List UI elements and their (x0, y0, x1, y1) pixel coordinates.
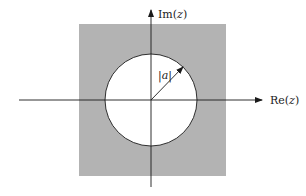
imaginary-axis-label: Im(z) (158, 8, 187, 21)
radius-label: |a| (158, 69, 172, 83)
real-axis-label: Re(z) (270, 94, 299, 107)
complex-plane-diagram: Im(z) Re(z) |a| (0, 0, 306, 196)
